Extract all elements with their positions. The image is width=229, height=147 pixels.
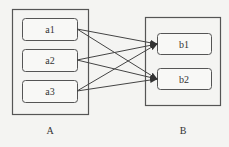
node-a3-label: a3 <box>45 86 54 97</box>
group-b-label: B <box>180 125 187 136</box>
node-a1-label: a1 <box>45 24 54 35</box>
group-a-label: A <box>46 125 54 136</box>
diagram-canvas: a1 a2 a3 A b1 b2 B <box>0 0 229 147</box>
group-b-box <box>146 18 221 106</box>
node-b2-label: b2 <box>179 74 189 85</box>
node-a2-label: a2 <box>45 55 54 66</box>
node-b1-label: b1 <box>179 39 189 50</box>
